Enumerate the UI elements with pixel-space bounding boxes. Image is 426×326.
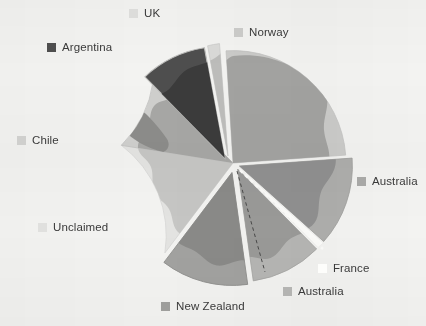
legend-label-unclaimed: Unclaimed: [53, 222, 108, 234]
legend-label-norway: Norway: [249, 27, 289, 39]
legend-item-unclaimed[interactable]: Unclaimed: [38, 222, 108, 234]
legend-swatch-new-zealand: [161, 302, 170, 311]
legend-swatch-unclaimed: [38, 223, 47, 232]
legend-swatch-uk: [129, 9, 138, 18]
figure-canvas: UK Norway Argentina Chile Unclaimed Aust…: [0, 0, 426, 326]
legend-swatch-argentina: [47, 43, 56, 52]
claim-sectors: [121, 44, 352, 286]
legend-item-uk[interactable]: UK: [129, 8, 160, 20]
legend-swatch-norway: [234, 28, 243, 37]
legend-swatch-australia-west: [283, 287, 292, 296]
legend-label-chile: Chile: [32, 135, 59, 147]
legend-item-france[interactable]: France: [318, 263, 369, 275]
legend-item-argentina[interactable]: Argentina: [47, 42, 112, 54]
legend-label-uk: UK: [144, 8, 160, 20]
legend-item-norway[interactable]: Norway: [234, 27, 289, 39]
legend-swatch-france: [318, 264, 327, 273]
legend-label-australia-west: Australia: [298, 286, 344, 298]
legend-label-australia-east: Australia: [372, 176, 418, 188]
legend-label-france: France: [333, 263, 369, 275]
sector-norway[interactable]: [226, 51, 346, 163]
legend-label-argentina: Argentina: [62, 42, 112, 54]
legend-item-chile[interactable]: Chile: [17, 135, 59, 147]
legend-label-new-zealand: New Zealand: [176, 301, 245, 313]
legend-item-australia-east[interactable]: Australia: [357, 176, 418, 188]
legend-item-new-zealand[interactable]: New Zealand: [161, 301, 245, 313]
legend-swatch-australia-east: [357, 177, 366, 186]
legend-swatch-chile: [17, 136, 26, 145]
legend-item-australia-west[interactable]: Australia: [283, 286, 344, 298]
